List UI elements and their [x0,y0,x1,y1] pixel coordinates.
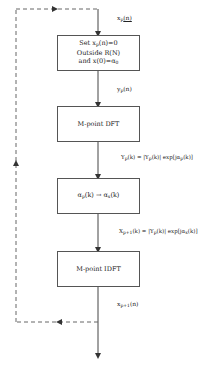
arrow-right-icon [52,6,58,12]
edge-label-xp: xp(n) [117,14,132,22]
box-dft: M-point DFT [57,106,140,142]
box-idft: M-point IDFT [57,251,140,287]
edge-label-Xp1: Xp+1(k) = |Yp(k)| exp[jαx(k)] [119,228,198,235]
box-constraint: Set xp(n)=0 Outside R(N) and x(0)=α0 [57,35,140,71]
box-phase-substitution: αp(k) → αx(k) [57,178,140,214]
edge-label-xp1: xp+1(n) [117,300,138,308]
arrow-left-icon [56,319,62,325]
edge-label-Yp: Yp(k) = |Yp(k)| exp[jαp(k)] [121,154,193,161]
arrow-up-icon [13,160,19,166]
edge-label-yp: yp(n) [117,85,132,93]
